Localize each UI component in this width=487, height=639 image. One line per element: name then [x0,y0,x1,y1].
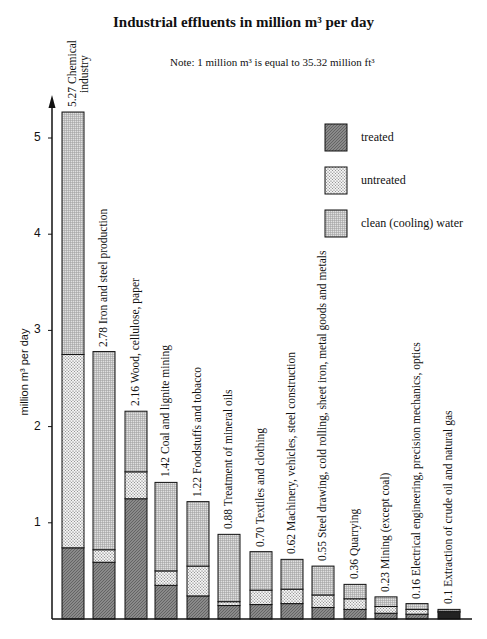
bar-segment-treated [125,499,147,619]
y-tick-label: 4 [34,226,41,240]
bar [250,552,272,619]
bar-segment-clean [344,584,366,598]
legend-swatch-clean [325,210,347,237]
bar [125,411,147,619]
bar [93,352,115,619]
bar-segment-clean [375,597,397,607]
bar-label-line2: industry [78,40,90,107]
legend-swatch-untreated [325,167,347,194]
bar-segment-clean [62,112,84,354]
bar-segment-clean [281,559,303,589]
bar-segment-untreated [250,590,272,604]
bar-value-label: 0.1 Extraction of crude oil and natural … [442,411,454,605]
bar-segment-untreated [344,599,366,610]
bar-segment-clean [406,604,428,610]
y-tick-label: 5 [34,130,41,144]
bar-segment-clean [218,534,240,601]
bar-segment-untreated [218,602,240,606]
bar-segment-treated [62,548,84,619]
bar-segment-treated [250,605,272,619]
bar-value-label: 2.16 Wood, cellulose, paper [129,278,141,406]
legend-swatch-treated [325,124,347,151]
bar-segment-clean [187,502,209,566]
bar-segment-treated [218,606,240,619]
bar-segment-treated [312,607,334,619]
bar-value-label: 0.36 Quarrying [348,509,360,579]
bar [375,597,397,619]
bar [344,584,366,619]
bar-value-label: 0.23 Mining (except coal) [379,472,391,591]
bar-value-label: 0.88 Treatment of mineral oils [222,390,234,530]
bar [155,482,177,619]
bar-segment-clean [93,352,115,550]
legend-label-clean: clean (cooling) water [361,216,463,231]
bar [281,559,303,619]
bar-segment-untreated [155,571,177,585]
y-axis-arrow-icon [49,95,56,108]
legend-label-treated: treated [361,130,394,145]
bar-value-label: 5.27 Chemicalindustry [66,40,90,107]
bar-segment-treated [344,609,366,619]
bar-segment-treated [281,604,303,619]
bar-value-label: 2.78 Iron and steel production [97,208,109,346]
y-tick-label: 2 [34,419,41,433]
bar-value-label: 1.22 Foodstuffs and tobacco [191,367,203,497]
legend-label-untreated: untreated [361,173,406,188]
bar-segment-clean [125,411,147,472]
bar [406,604,428,619]
bar-segment-treated [438,612,460,619]
bar-segment-untreated [93,550,115,563]
bar [312,566,334,619]
bar-value-label: 1.42 Coal and lignite mining [159,345,171,477]
bar-segment-treated [375,613,397,619]
bar-segment-untreated [312,595,334,608]
bar-segment-clean [250,552,272,590]
bar [187,502,209,619]
bar-segment-treated [155,585,177,619]
bar-segment-untreated [281,589,303,603]
bar-segment-untreated [406,609,428,614]
bar-segment-clean [155,482,177,571]
bar-segment-untreated [375,606,397,613]
bar-value-label: 0.70 Textiles and clothing [254,428,266,547]
bar [438,609,460,619]
bar-segment-treated [187,596,209,619]
bar-segment-untreated [125,472,147,499]
bar [62,112,84,619]
bar-value-label: 0.55 Steel drawing, cold rolling, sheet … [316,251,328,561]
bar-segment-clean [312,566,334,595]
bar-value-label: 0.16 Electrical engineering, precision m… [410,342,422,599]
bar-segment-treated [93,562,115,619]
bar-value-label: 0.62 Machinery, vehicles, steel construc… [285,352,297,554]
bar-segment-untreated [62,354,84,547]
legend-group [325,124,347,237]
bar-segment-clean [438,609,460,611]
bar [218,534,240,619]
bar-segment-untreated [187,566,209,596]
y-axis-label: million m³ per day [18,329,30,416]
y-tick-label: 1 [34,515,41,529]
y-tick-label: 3 [34,322,41,336]
